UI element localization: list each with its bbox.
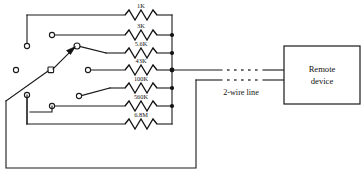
circuit-canvas: 1K 3K 5.6K 43K 100K [0,0,364,176]
resistor-row-7: 6.8M [27,111,172,129]
resistor-symbol-560k [125,101,157,111]
junction-dot-row5 [170,86,174,90]
circuit-diagram: 1K 3K 5.6K 43K 100K [0,0,364,176]
resistor-row-6: 560K [55,93,172,111]
terminal-5-6k-pole[interactable] [74,43,80,49]
resistor-row-2: 3K [55,22,172,40]
resistor-label-4: 43K [135,57,146,64]
resistor-symbol-43k [125,65,157,75]
resistor-symbol-6-8m [125,119,157,129]
resistor-row-5: 100K [110,75,172,93]
switch-pivot-node[interactable] [48,67,54,73]
resistor-label-7: 6.8M [134,111,148,118]
resistor-symbol-1k [125,10,157,20]
resistor-label-1: 1K [137,2,145,9]
resistor-label-3: 5.6K [135,40,148,47]
remote-device-label-line2: device [311,76,334,86]
remote-device-box [284,46,360,104]
resistor-symbol-3k [125,30,157,40]
terminal-1k[interactable] [24,43,29,48]
two-wire-line-label: 2-wire line [223,88,259,97]
junction-dot-row6 [170,104,174,108]
resistor-label-6: 560K [134,93,149,100]
terminal-3k[interactable] [49,32,54,37]
resistor-row-4: 43K [91,57,172,75]
terminal-43k[interactable] [85,67,90,72]
resistor-label-5: 100K [134,75,149,82]
wire-5-6k-lead [78,46,106,53]
two-wire-bottom-breakdots [227,79,258,80]
remote-device-label-line1: Remote [309,64,336,74]
junction-dot-row3 [170,51,174,55]
resistor-label-2: 3K [137,22,145,29]
wire-100k-lead [80,88,110,96]
wire-560k-return [30,106,52,112]
terminal-100k[interactable] [76,93,81,98]
switch-common-terminal[interactable] [13,67,18,72]
resistor-row-3: 5.6K [106,40,172,58]
resistor-symbol-100k [125,83,157,93]
resistor-row-1: 1K [27,2,172,20]
two-wire-top-breakdots [227,69,258,70]
junction-dot-row2 [170,33,174,37]
switch-arrow-icon [67,47,76,55]
